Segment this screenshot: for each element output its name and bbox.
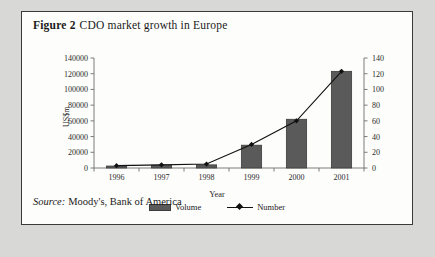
source-label: Source:	[33, 196, 65, 207]
bar-2001	[331, 71, 351, 168]
legend-item-number: Number	[227, 202, 285, 212]
source-text: Moody's, Bank of America	[68, 196, 181, 207]
figure-panel: Figure 2CDO market growth in Europe US$m…	[21, 11, 413, 225]
legend-swatch-number-icon	[227, 204, 253, 211]
legend-label-number: Number	[257, 202, 285, 212]
bar-1999	[241, 145, 261, 168]
number-line	[117, 71, 342, 165]
bar-2000	[286, 119, 306, 168]
source-note: Source:Moody's, Bank of America	[33, 196, 182, 207]
